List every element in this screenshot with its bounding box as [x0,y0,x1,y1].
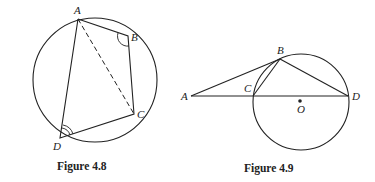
label-c: C [244,82,252,94]
angle-d-arc-inner [62,128,70,135]
diagonal-ac-dashed [78,19,134,114]
figure-caption: Figure 4.9 [244,162,294,175]
label-d: D [351,90,360,102]
figure-4-9: A B C D O Figure 4.9 [180,44,360,175]
circle [33,18,157,142]
angle-d-arc-outer [63,125,73,134]
angle-b-arc [118,33,129,46]
diagram-canvas: A B C D Figure 4.8 A B C D O Figure 4.9 [0,0,375,182]
figure-caption: Figure 4.8 [57,160,107,173]
quadrilateral-abcd [60,19,134,138]
label-a: A [180,90,188,102]
label-a: A [73,4,81,16]
label-b: B [131,31,138,43]
label-d: D [52,140,61,152]
label-o: O [297,103,305,115]
chord-bd [280,59,348,96]
label-b: B [277,44,284,56]
figure-4-8: A B C D Figure 4.8 [33,4,157,173]
label-c: C [137,108,145,120]
